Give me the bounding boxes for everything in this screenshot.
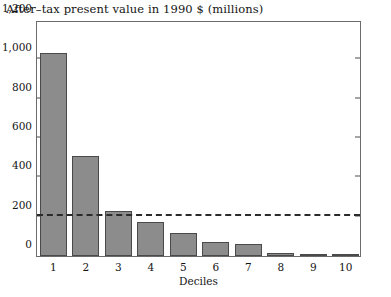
- reference-line: [37, 214, 360, 216]
- y-axis-tick-label: 200: [12, 199, 32, 211]
- x-axis-tick-label: 1: [50, 261, 57, 273]
- chart-figure: After–tax present value in 1990 $ (milli…: [0, 0, 391, 297]
- x-axis-tick-label: 6: [212, 261, 219, 273]
- x-axis-tick-label: 10: [339, 261, 352, 273]
- bar-decile-6: [202, 242, 229, 256]
- y-axis-tick-label: 0: [25, 238, 32, 250]
- bar-decile-7: [235, 244, 262, 256]
- y-axis-tick-mark-right: [355, 97, 360, 98]
- x-axis-tick-label: 8: [277, 261, 284, 273]
- bar-decile-9: [300, 254, 327, 256]
- y-axis-tick-label: 800: [12, 81, 32, 93]
- chart-title: After–tax present value in 1990 $ (milli…: [6, 2, 263, 16]
- x-axis-tick-label: 2: [82, 261, 89, 273]
- y-axis-tick-label: 400: [12, 159, 32, 171]
- bar-decile-4: [137, 222, 164, 256]
- y-axis-tick-label: 600: [12, 120, 32, 132]
- x-axis-tick-label: 9: [310, 261, 317, 273]
- x-axis-tick-label: 5: [180, 261, 187, 273]
- y-axis-tick-mark-right: [355, 176, 360, 177]
- bar-decile-8: [267, 253, 294, 256]
- y-axis-tick-mark-right: [355, 58, 360, 59]
- y-axis-tick-label: 1,200: [2, 2, 32, 14]
- bar-decile-2: [72, 156, 99, 256]
- plot-inner: 02004006008001,0001,20012345678910Decile…: [37, 22, 360, 256]
- x-axis-tick-label: 7: [245, 261, 252, 273]
- bar-decile-10: [332, 254, 359, 256]
- y-axis-tick-label: 1,000: [2, 41, 32, 53]
- x-axis-tick-label: 3: [115, 261, 122, 273]
- plot-area: 02004006008001,0001,20012345678910Decile…: [36, 21, 361, 257]
- bar-decile-3: [105, 211, 132, 256]
- x-axis-label: Deciles: [179, 275, 218, 287]
- bar-decile-1: [40, 53, 67, 256]
- bar-decile-5: [170, 233, 197, 256]
- y-axis-tick-mark-right: [355, 137, 360, 138]
- x-axis-tick-label: 4: [147, 261, 154, 273]
